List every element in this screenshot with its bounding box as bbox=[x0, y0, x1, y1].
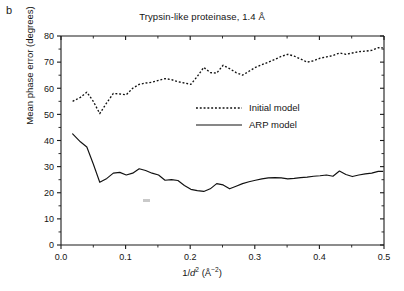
x-tick-label: 0.0 bbox=[55, 252, 68, 262]
y-tick-label: 30 bbox=[44, 162, 54, 172]
y-tick-label: 10 bbox=[44, 214, 54, 224]
legend-swatch-solid bbox=[196, 121, 242, 129]
legend-swatch-dotted bbox=[196, 104, 242, 112]
x-tick-label: 0.5 bbox=[378, 252, 391, 262]
chart-legend: Initial model ARP model bbox=[196, 99, 321, 133]
y-tick-label: 0 bbox=[49, 240, 54, 250]
x-tick-label: 0.3 bbox=[249, 252, 262, 262]
x-tick-label: 0.2 bbox=[184, 252, 197, 262]
y-tick-label: 20 bbox=[44, 188, 54, 198]
y-tick-label: 60 bbox=[44, 84, 54, 94]
scan-artifact-mark bbox=[143, 199, 150, 202]
y-tick-label: 40 bbox=[44, 136, 54, 146]
x-axis-label: 1/d2 (Å−2) bbox=[0, 266, 404, 278]
legend-label-initial-model: Initial model bbox=[249, 102, 300, 113]
series-arp-model bbox=[73, 134, 383, 191]
legend-label-arp-model: ARP model bbox=[249, 119, 297, 130]
x-tick-label: 0.4 bbox=[313, 252, 326, 262]
y-tick-label: 80 bbox=[44, 31, 54, 41]
y-tick-label: 50 bbox=[44, 110, 54, 120]
legend-item-initial-model: Initial model bbox=[196, 99, 321, 116]
legend-item-arp-model: ARP model bbox=[196, 116, 321, 133]
y-axis-label: Mean phase error (degrees) bbox=[24, 0, 35, 161]
figure-panel: b Trypsin-like proteinase, 1.4 Å 0102030… bbox=[0, 0, 404, 291]
x-tick-label: 0.1 bbox=[119, 252, 132, 262]
y-tick-label: 70 bbox=[44, 57, 54, 67]
plot-canvas: 010203040506070800.00.10.20.30.40.5 bbox=[0, 0, 404, 291]
